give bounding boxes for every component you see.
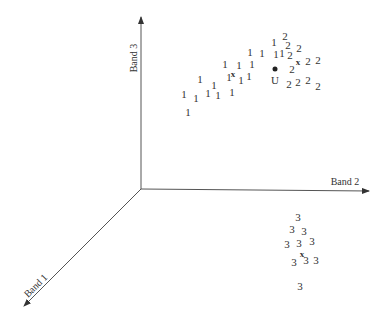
cluster-2: 22222222222x [282,30,321,92]
class-1-point: 1 [279,47,285,59]
class-1-point: 1 [193,92,199,104]
feature-space-diagram: Band 3 Band 2 Band 1 1111111111111111111… [0,0,387,322]
class-1-point: 1 [181,88,187,100]
class-2-point: 2 [286,78,292,90]
class-1-point: 1 [247,46,253,58]
class-3-point: 3 [289,223,295,235]
band2-axis [141,189,369,191]
class-1-point: 1 [205,87,211,99]
class-3-point: 3 [284,238,290,250]
class-3-point: 3 [313,254,319,266]
class-1-point: 1 [249,58,255,70]
class-1-point: 1 [236,59,242,71]
class-2-point: 2 [305,74,311,86]
class-3-point: 3 [295,211,301,223]
class-1-point: 1 [271,36,277,48]
unknown-point-dot-icon [273,67,278,72]
class-3-point: 3 [301,225,307,237]
class-2-point: 2 [287,49,293,61]
class-3-point: 3 [296,237,302,249]
unknown-point-label: U [271,74,279,86]
class-1-point: 1 [273,48,279,60]
class-2-point: 2 [289,63,295,75]
class-1-centroid-icon: x [231,69,236,79]
class-1-point: 1 [238,74,244,86]
class-1-point: 1 [259,47,265,59]
class-2-centroid-icon: x [296,57,301,67]
class-1-point: 1 [246,70,252,82]
class-3-centroid-icon: x [300,249,305,259]
class-1-point: 1 [197,73,203,85]
band3-label: Band 3 [128,44,139,73]
class-1-point: 1 [222,58,228,70]
band1-label: Band 1 [22,272,50,300]
class-1-point: 1 [215,89,221,101]
class-1-point: 1 [229,86,235,98]
class-3-point: 3 [297,280,303,292]
clusters: 1111111111111111111x22222222222x33333333… [181,30,321,292]
class-2-point: 2 [315,54,321,66]
class-2-point: 2 [295,76,301,88]
band2-label: Band 2 [331,176,360,187]
class-1-point: 1 [185,106,191,118]
class-2-point: 2 [296,42,302,54]
band1-axis [24,189,141,306]
class-3-point: 3 [291,256,297,268]
class-3-point: 3 [309,235,315,247]
unknown-point: U [271,67,279,87]
class-2-point: 2 [305,55,311,67]
cluster-1: 1111111111111111111x [181,36,285,118]
class-2-point: 2 [315,80,321,92]
cluster-3: 3333333333x [284,211,319,292]
